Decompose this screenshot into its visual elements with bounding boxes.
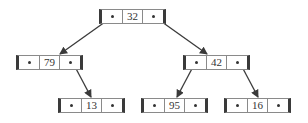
pointer-dot-icon (195, 61, 198, 64)
right-pointer-cell (143, 10, 163, 23)
node-value: 79 (39, 56, 60, 69)
left-pointer-cell (144, 99, 164, 112)
tree-node-42: 42 (183, 55, 250, 70)
null-pointer-dot-icon (111, 104, 114, 107)
right-pointer-cell (185, 99, 205, 112)
pointer-dot-icon (152, 15, 155, 18)
pointer-dot-icon (111, 15, 114, 18)
node-value: 95 (164, 99, 185, 112)
node-value: 16 (247, 99, 268, 112)
tree-node-79: 79 (16, 55, 83, 70)
null-pointer-dot-icon (277, 104, 280, 107)
left-pointer-cell (186, 56, 206, 69)
left-pointer-cell (61, 99, 81, 112)
pointer-dot-icon (69, 61, 72, 64)
null-pointer-dot-icon (28, 61, 31, 64)
tree-node-95: 95 (141, 98, 208, 113)
pointer-dot-icon (236, 61, 239, 64)
binary-tree-diagram: 32 79 42 13 95 16 (0, 0, 308, 123)
right-pointer-cell (227, 56, 247, 69)
left-pointer-cell (102, 10, 122, 23)
null-pointer-dot-icon (70, 104, 73, 107)
right-pointer-cell (268, 99, 288, 112)
tree-node-root: 32 (99, 9, 166, 24)
right-pointer-cell (60, 56, 80, 69)
null-pointer-dot-icon (194, 104, 197, 107)
right-pointer-cell (102, 99, 122, 112)
null-pointer-dot-icon (236, 104, 239, 107)
tree-node-13: 13 (58, 98, 125, 113)
node-value: 13 (81, 99, 102, 112)
null-pointer-dot-icon (153, 104, 156, 107)
left-pointer-cell (227, 99, 247, 112)
node-value: 42 (206, 56, 227, 69)
tree-node-16: 16 (224, 98, 291, 113)
node-value: 32 (122, 10, 143, 23)
left-pointer-cell (19, 56, 39, 69)
